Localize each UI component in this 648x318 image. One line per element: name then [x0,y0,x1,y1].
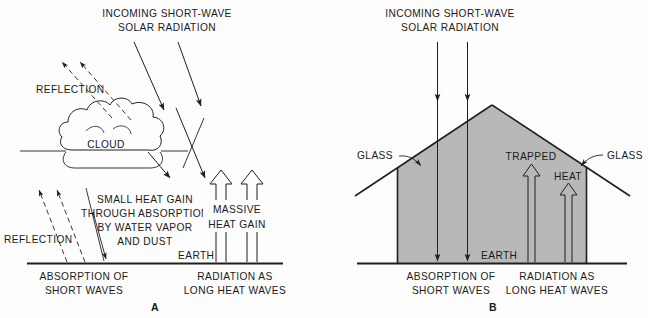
incoming-ray-a-3-lower [148,152,170,178]
panel-b-earth-label: EARTH [481,250,517,261]
panel-b-trapped-label: TRAPPED [506,151,557,162]
panel-a: INCOMING SHORT-WAVE SOLAR RADIATION REFL… [4,8,286,313]
panel-a-reflection-bottom-label: REFLECTION [4,234,73,245]
panel-a-ground-right-line2: LONG HEAT WAVES [184,285,286,296]
panel-a-letter: A [151,301,159,313]
incoming-ray-a-2 [178,42,201,106]
panel-a-absorption-line1: SMALL HEAT GAIN [97,194,193,205]
panel-b-ground-right-line1: RADIATION AS [519,271,594,282]
panel-b-ground-right-line2: LONG HEAT WAVES [506,285,608,296]
panel-b-ground-left-line2: SHORT WAVES [412,285,490,296]
greenhouse-body-fill [397,106,587,263]
panel-b-heat-label: HEAT [554,171,582,182]
panel-b-letter: B [489,301,497,313]
shortwave-to-ground-a-2 [93,212,106,259]
panel-a-absorption-line2: THROUGH ABSORPTION [81,208,209,219]
greenhouse-effect-figure: INCOMING SHORT-WAVE SOLAR RADIATION REFL… [0,0,648,318]
reflection-arrow-a-ground-1 [39,190,67,262]
incoming-ray-a-1 [134,42,164,110]
panel-b-ground-left-line1: ABSORPTION OF [407,271,496,282]
glass-right-leader [581,155,603,166]
cloud-label: CLOUD [87,139,125,150]
panel-a-reflection-top-label: REFLECTION [36,84,105,95]
panel-b-heading-line2: SOLAR RADIATION [401,22,499,33]
cloud-base-outline [63,152,162,168]
diagram-canvas: INCOMING SHORT-WAVE SOLAR RADIATION REFL… [0,0,648,318]
cloud-contour-1 [86,126,104,133]
panel-a-absorption-line3: BY WATER VAPOR [97,222,192,233]
panel-a-ground-left-line2: SHORT WAVES [45,285,123,296]
panel-b-glass-left-label: GLASS [357,150,393,161]
panel-b-glass-right-label: GLASS [607,150,643,161]
panel-a-massive-line2: HEAT GAIN [208,219,266,230]
panel-a-earth-label: EARTH [178,250,214,261]
panel-a-heading-line2: SOLAR RADIATION [118,22,216,33]
panel-a-ground-right-line1: RADIATION AS [197,271,272,282]
panel-a-massive-line1: MASSIVE [213,204,261,215]
panel-a-ground-left-line1: ABSORPTION OF [40,271,129,282]
panel-b: INCOMING SHORT-WAVE SOLAR RADIATION GLAS… [355,8,643,313]
panel-a-absorption-line4: AND DUST [117,236,172,247]
reflection-arrow-a-ground-2 [57,190,85,262]
cloud-contour-2 [113,126,131,134]
panel-a-heading-line1: INCOMING SHORT-WAVE [102,8,232,19]
panel-b-heading-line1: INCOMING SHORT-WAVE [385,8,515,19]
incoming-ray-a-2-lower [176,108,205,178]
incoming-ray-a-connector [183,118,204,168]
